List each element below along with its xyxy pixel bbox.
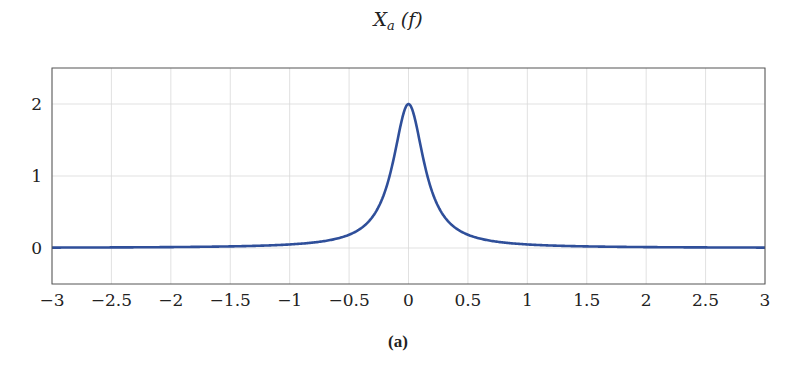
x-tick-label: −0.5 bbox=[328, 290, 369, 310]
x-tick-label: −1.5 bbox=[210, 290, 251, 310]
x-tick-label: 0 bbox=[403, 290, 414, 310]
x-tick-label: −3 bbox=[39, 290, 64, 310]
x-tick-label: 2 bbox=[641, 290, 652, 310]
x-tick-label: −2.5 bbox=[91, 290, 132, 310]
y-tick-label: 2 bbox=[31, 94, 42, 114]
y-tick-label: 0 bbox=[31, 238, 42, 258]
x-tick-label: 1 bbox=[522, 290, 533, 310]
x-tick-label: 1.5 bbox=[573, 290, 600, 310]
line-chart: −3−2.5−2−1.5−1−0.500.511.522.53012 bbox=[0, 0, 796, 330]
x-tick-label: 2.5 bbox=[692, 290, 719, 310]
x-tick-label: −2 bbox=[158, 290, 183, 310]
x-tick-label: 3 bbox=[760, 290, 771, 310]
figure-caption: (a) bbox=[0, 332, 796, 352]
y-tick-label: 1 bbox=[31, 166, 42, 186]
x-tick-label: 0.5 bbox=[454, 290, 481, 310]
x-tick-label: −1 bbox=[277, 290, 302, 310]
